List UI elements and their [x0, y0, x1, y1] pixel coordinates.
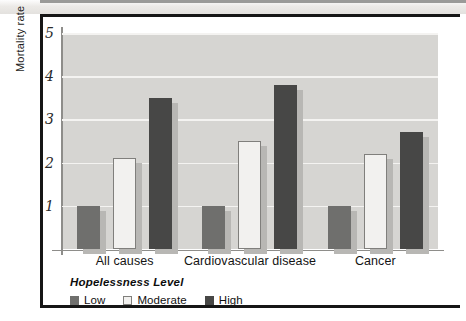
x-axis-label: All causes [96, 254, 154, 268]
x-axis-label: Cancer [355, 254, 396, 268]
legend-label: Moderate [137, 294, 186, 306]
y-tick-label: 5 [45, 25, 54, 41]
legend-swatch-icon [70, 296, 79, 305]
y-tick-label: 3 [45, 111, 54, 127]
bar-high[interactable] [400, 132, 423, 249]
bar-group [62, 33, 187, 249]
bar-low[interactable] [328, 206, 351, 249]
bar-chart-figure: Mortality rate 12345 All causesCardiovas… [0, 14, 466, 321]
legend: Hopelessness Level LowModerateHigh [70, 276, 243, 306]
bar-high[interactable] [274, 85, 297, 249]
bar-high[interactable] [149, 98, 172, 249]
bar-low[interactable] [202, 206, 225, 249]
bar-moderate[interactable] [364, 154, 387, 249]
bar-moderate[interactable] [238, 141, 261, 249]
legend-item-low[interactable]: Low [70, 294, 105, 306]
legend-label: Low [84, 294, 105, 306]
legend-item-moderate[interactable]: Moderate [123, 294, 186, 306]
bar-group [187, 33, 312, 249]
bar-group [313, 33, 438, 249]
legend-swatch-icon [205, 296, 214, 305]
scan-edge-line [40, 0, 466, 3]
legend-item-high[interactable]: High [205, 294, 243, 306]
y-tick-label: 4 [45, 68, 54, 84]
y-tick-label: 2 [45, 155, 54, 171]
x-axis-label: Cardiovascular disease [184, 254, 316, 268]
legend-title: Hopelessness Level [70, 276, 243, 288]
y-axis-title: Mortality rate [14, 0, 26, 72]
legend-swatch-icon [123, 296, 132, 305]
y-tick-label: 1 [45, 198, 54, 214]
bar-low[interactable] [77, 206, 100, 249]
legend-label: High [219, 294, 243, 306]
plot-area: 12345 [62, 33, 438, 249]
bar-moderate[interactable] [113, 158, 136, 249]
legend-items: LowModerateHigh [70, 294, 243, 306]
